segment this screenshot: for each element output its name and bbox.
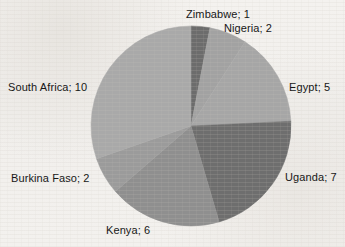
pie-chart-figure: Zimbabwe; 1 Nigeria; 2 Egypt; 5 Uganda; …: [0, 0, 345, 247]
pie-label-kenya: Kenya; 6: [106, 224, 150, 237]
pie-chart-canvas: [0, 0, 345, 247]
pie-label-egypt: Egypt; 5: [289, 81, 330, 94]
pie-label-burkina-faso: Burkina Faso; 2: [11, 172, 90, 185]
pie-slice-group: [91, 26, 291, 226]
pie-label-uganda: Uganda; 7: [285, 171, 337, 184]
pie-label-zimbabwe: Zimbabwe; 1: [186, 8, 250, 21]
pie-label-south-africa: South Africa; 10: [8, 81, 87, 94]
pie-label-nigeria: Nigeria; 2: [224, 22, 272, 35]
